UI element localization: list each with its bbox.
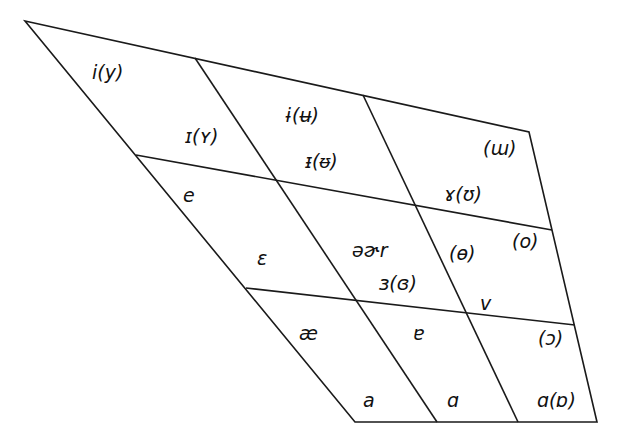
label-open-mid-back-unrounded: ʌ: [480, 295, 492, 317]
label-near-open-central: ɐ: [413, 322, 425, 344]
vowel-labels: i(y) ɪ(ʏ) ɨ(ʉ) ᵻ(ᵿ) (ɯ) ɤ(ʊ) e ɛ əɚr ɜ(ɞ…: [92, 61, 576, 411]
label-close-back: (ɯ): [483, 137, 516, 159]
label-open-front: a: [363, 389, 375, 411]
label-open-back: ɑ(ɒ): [537, 389, 576, 411]
label-near-close-front: ɪ(ʏ): [185, 125, 219, 147]
label-mid-central: əɚr: [352, 239, 389, 261]
label-near-open-front: æ: [299, 322, 318, 344]
vowel-chart: i(y) ɪ(ʏ) ɨ(ʉ) ᵻ(ᵿ) (ɯ) ɤ(ʊ) e ɛ əɚr ɜ(ɞ…: [0, 0, 620, 448]
divider-row-1: [136, 155, 552, 230]
label-near-close-central: ᵻ(ᵿ): [305, 150, 338, 172]
label-near-close-back: ɤ(ʊ): [444, 183, 482, 205]
label-mid-central-rounded: (ɵ): [449, 242, 475, 264]
label-close-central: ɨ(ʉ): [285, 104, 319, 126]
label-close-front: i(y): [92, 61, 123, 83]
label-open-central: ɑ: [447, 389, 459, 411]
label-close-mid-back: (o): [512, 230, 538, 252]
label-close-mid-front: e: [183, 184, 195, 206]
label-open-mid-central: ɜ(ɞ): [379, 272, 417, 294]
label-open-mid-back: (ɔ): [538, 327, 563, 349]
label-open-mid-front: ɛ: [257, 247, 267, 269]
